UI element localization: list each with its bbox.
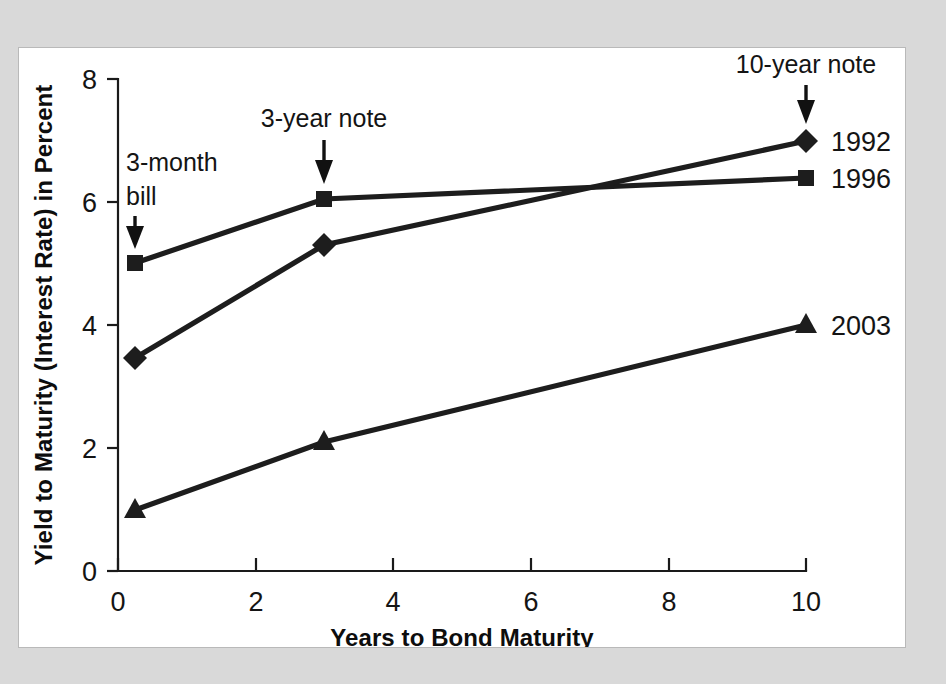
series-1992-marker-0: [123, 346, 147, 370]
figure-root: 8 6 4 2 0 0 2 4 6 8 10: [0, 0, 946, 684]
series-1996-marker-2: [798, 170, 814, 186]
series-1996-line: [135, 178, 806, 263]
annotation-three-year-note: 3-year note: [261, 104, 387, 184]
y-tick-label-0: 0: [82, 557, 97, 587]
y-tick-label-2: 2: [82, 434, 97, 464]
x-tick-labels-group: 0 2 4 6 8 10: [110, 587, 821, 617]
annotation-three-month-bill-arrow-head: [126, 226, 144, 249]
chart-panel: 8 6 4 2 0 0 2 4 6 8 10: [18, 47, 906, 648]
series-1996-marker-0: [127, 255, 143, 271]
y-tick-label-8: 8: [82, 65, 97, 95]
x-ticks-group: [118, 558, 806, 571]
y-tick-labels-group: 8 6 4 2 0: [82, 65, 97, 587]
annotation-ten-year-note: 10-year note: [736, 50, 876, 124]
series-1992-line: [135, 141, 806, 358]
x-axis-title: Years to Bond Maturity: [330, 624, 594, 648]
annotation-three-month-bill-line1: 3-month: [126, 148, 218, 176]
series-2003-line: [135, 325, 806, 510]
series-label-2003: 2003: [831, 311, 891, 341]
annotation-three-year-note-label: 3-year note: [261, 104, 387, 132]
annotation-three-year-note-arrow-head: [315, 160, 333, 184]
x-tick-label-6: 6: [523, 587, 538, 617]
annotation-three-month-bill: 3-month bill: [126, 148, 218, 249]
annotation-three-month-bill-line2: bill: [126, 182, 157, 210]
x-tick-label-0: 0: [110, 587, 125, 617]
x-tick-label-8: 8: [661, 587, 676, 617]
y-ticks-group: [107, 79, 118, 571]
x-tick-label-10: 10: [791, 587, 821, 617]
annotation-ten-year-note-arrow-head: [797, 100, 815, 124]
series-1996-marker-1: [316, 191, 332, 207]
y-tick-label-6: 6: [82, 188, 97, 218]
y-tick-label-4: 4: [82, 311, 97, 341]
series-1992-marker-2: [794, 129, 818, 153]
series-1996: [127, 170, 814, 271]
x-tick-label-4: 4: [385, 587, 400, 617]
x-tick-label-2: 2: [248, 587, 263, 617]
line-chart: 8 6 4 2 0 0 2 4 6 8 10: [19, 48, 906, 648]
y-axis-title: Yield to Maturity (Interest Rate) in Per…: [30, 85, 57, 566]
series-label-1992: 1992: [831, 127, 891, 157]
series-1992: [123, 129, 818, 370]
series-1992-marker-1: [312, 233, 336, 257]
series-2003-marker-2: [795, 313, 817, 333]
series-2003: [124, 313, 817, 518]
annotation-ten-year-note-label: 10-year note: [736, 50, 876, 78]
axes-group: [118, 79, 806, 571]
series-label-1996: 1996: [831, 164, 891, 194]
